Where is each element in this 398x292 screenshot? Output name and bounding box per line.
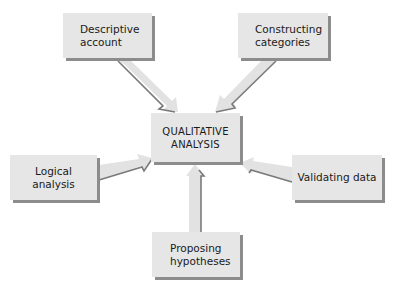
node-constructing-categories: Constructing categories: [238, 13, 328, 58]
arrow-proposing-to-center: [186, 164, 204, 232]
node-label: Descriptive account: [80, 23, 139, 49]
node-validating-data: Validating data: [292, 155, 382, 200]
node-label: Validating data: [297, 171, 376, 184]
node-label: Proposing hypotheses: [170, 242, 231, 268]
arrow-constructing-to-center: [215, 60, 276, 112]
node-proposing-hypotheses: Proposing hypotheses: [152, 232, 240, 277]
center-label: QUALITATIVE ANALYSIS: [162, 125, 228, 151]
arrow-descriptive-to-center: [118, 60, 178, 112]
node-label: Constructing categories: [255, 23, 322, 49]
node-qualitative-analysis: QUALITATIVE ANALYSIS: [151, 113, 240, 162]
node-descriptive-account: Descriptive account: [63, 13, 152, 58]
node-label: Logical analysis: [32, 165, 75, 191]
diagram-canvas: Descriptive account Constructing categor…: [0, 0, 398, 292]
node-logical-analysis: Logical analysis: [10, 155, 97, 200]
arrow-validating-to-center: [240, 157, 292, 182]
arrow-logical-to-center: [99, 154, 152, 180]
